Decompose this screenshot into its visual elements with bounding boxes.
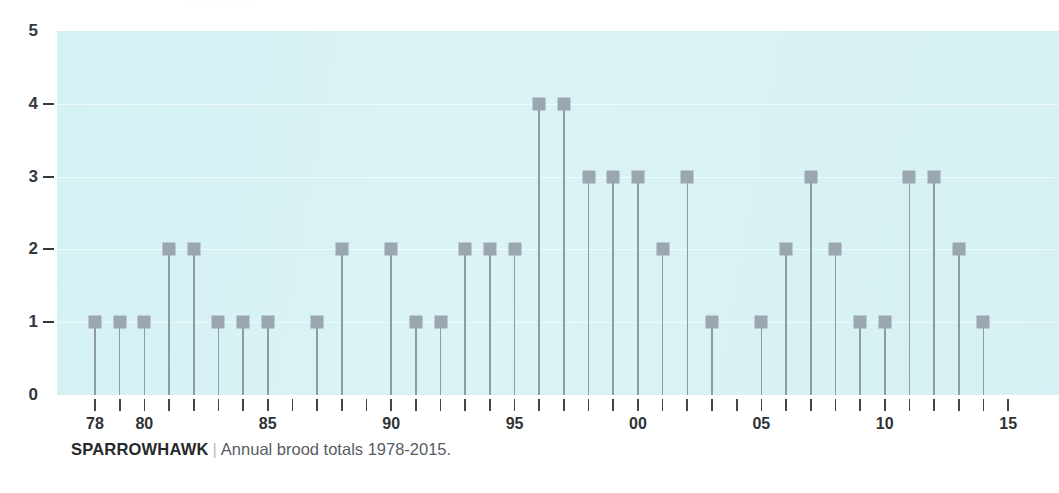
gridline-y-1 [57, 322, 1059, 323]
x-tick-1990 [390, 399, 392, 411]
x-tick-2010 [884, 399, 886, 411]
y-tick-dash-2 [43, 248, 54, 250]
x-tick-2007 [810, 399, 812, 411]
x-tick-2005 [761, 399, 763, 411]
x-tick-1979 [119, 399, 121, 411]
x-tick-2002 [686, 399, 688, 411]
x-tick-1981 [168, 399, 170, 411]
x-tick-label-2010: 10 [876, 415, 894, 433]
x-tick-1993 [464, 399, 466, 411]
x-tick-1999 [612, 399, 614, 411]
caption-description: Annual brood totals 1978-2015. [221, 440, 451, 458]
caption-species: SPARROWHAWK [71, 440, 209, 458]
x-tick-2009 [859, 399, 861, 411]
y-tick-dash-3 [43, 176, 54, 178]
x-tick-2015 [1007, 399, 1009, 411]
x-tick-1992 [440, 399, 442, 411]
y-tick-label-3: 3 [18, 167, 38, 187]
caption: SPARROWHAWK|Annual brood totals 1978-201… [71, 440, 451, 459]
gridline-y-2 [57, 249, 1059, 250]
y-tick-dash-4 [43, 103, 54, 105]
x-tick-label-1985: 85 [259, 415, 277, 433]
x-tick-1994 [489, 399, 491, 411]
x-tick-2011 [909, 399, 911, 411]
x-tick-1980 [144, 399, 146, 411]
caption-separator: | [209, 440, 221, 458]
x-tick-1978 [94, 399, 96, 411]
x-tick-2012 [933, 399, 935, 411]
x-tick-1991 [415, 399, 417, 411]
x-tick-2003 [711, 399, 713, 411]
x-tick-label-1978: 78 [86, 415, 104, 433]
x-tick-1995 [514, 399, 516, 411]
x-tick-2014 [983, 399, 985, 411]
y-tick-label-4: 4 [18, 94, 38, 114]
x-tick-label-2015: 15 [999, 415, 1017, 433]
x-tick-1983 [218, 399, 220, 411]
x-tick-1982 [193, 399, 195, 411]
cropped-header-text: · · · · · · · · · · [185, 0, 267, 6]
gridline-y-3 [57, 177, 1059, 178]
gridline-y-4 [57, 104, 1059, 105]
x-tick-1997 [563, 399, 565, 411]
x-tick-1987 [316, 399, 318, 411]
x-tick-label-1990: 90 [382, 415, 400, 433]
x-tick-label-1980: 80 [135, 415, 153, 433]
y-tick-label-0: 0 [18, 385, 38, 405]
x-tick-2008 [835, 399, 837, 411]
x-tick-1985 [267, 399, 269, 411]
x-tick-1988 [341, 399, 343, 411]
y-tick-label-2: 2 [18, 239, 38, 259]
y-tick-dash-1 [43, 321, 54, 323]
x-tick-2006 [785, 399, 787, 411]
x-tick-1984 [242, 399, 244, 411]
x-tick-label-1995: 95 [506, 415, 524, 433]
cropped-header-strip: · · · · · · · · · · [0, 0, 1059, 10]
x-tick-2004 [736, 399, 738, 411]
y-tick-label-1: 1 [18, 312, 38, 332]
y-tick-label-5: 5 [18, 21, 38, 41]
x-tick-1989 [366, 399, 368, 411]
x-tick-1996 [538, 399, 540, 411]
x-tick-label-2005: 05 [752, 415, 770, 433]
plot-area [57, 31, 1059, 395]
x-tick-2001 [662, 399, 664, 411]
chart-figure: · · · · · · · · · · 012345 7880859095000… [0, 0, 1059, 493]
x-tick-2000 [637, 399, 639, 411]
x-tick-label-2000: 00 [629, 415, 647, 433]
x-tick-1998 [588, 399, 590, 411]
x-tick-2013 [958, 399, 960, 411]
x-tick-1986 [292, 399, 294, 411]
